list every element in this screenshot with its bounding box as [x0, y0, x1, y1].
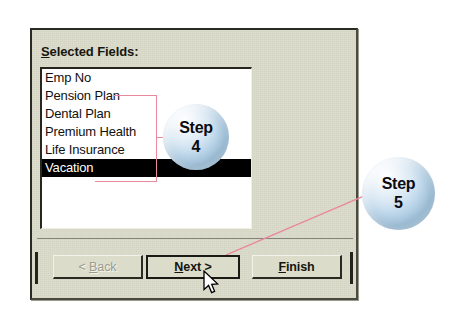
back-button-prefix: <	[79, 260, 90, 274]
finish-button-label: inish	[286, 260, 315, 274]
list-item[interactable]: Emp No	[42, 69, 251, 87]
step-4-number: 4	[192, 139, 201, 155]
button-bar-separator	[37, 238, 353, 239]
next-button-label: ext >	[183, 260, 211, 274]
step4-bracket-bottom	[95, 181, 157, 182]
step-4-callout-bubble: Step 4	[163, 104, 229, 170]
next-button[interactable]: Next >	[146, 255, 240, 279]
wizard-button-bar: < Back Next > Finish	[36, 252, 354, 286]
screenshot-canvas: Selected Fields: Emp No Pension Plan Den…	[0, 0, 450, 316]
step-5-callout-bubble: Step 5	[362, 157, 435, 230]
list-item-selected[interactable]: Vacation	[42, 159, 251, 177]
button-bar-edge-mark-left	[35, 252, 38, 284]
step-4-word: Step	[179, 120, 212, 136]
back-button-label: ack	[97, 260, 116, 274]
next-button-accelerator: N	[174, 260, 183, 274]
finish-button[interactable]: Finish	[252, 255, 342, 279]
step-5-number: 5	[394, 195, 403, 211]
step4-bracket-right	[156, 95, 157, 182]
selected-fields-label-accelerator: S	[41, 44, 50, 59]
finish-button-accelerator: F	[278, 260, 286, 274]
step4-bracket-top	[113, 95, 157, 96]
step-5-word: Step	[382, 176, 415, 192]
button-bar-edge-mark-right	[350, 252, 353, 284]
list-item[interactable]: Pension Plan	[42, 87, 251, 105]
selected-fields-label-text: elected Fields:	[50, 44, 139, 59]
selected-fields-label: Selected Fields:	[41, 44, 138, 59]
back-button[interactable]: < Back	[53, 255, 143, 279]
